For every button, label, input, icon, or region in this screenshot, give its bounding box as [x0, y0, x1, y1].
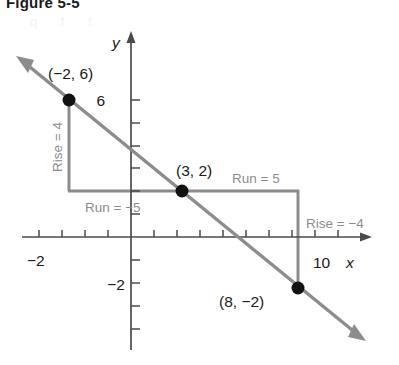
- annotation-rise-right: Rise = −4: [306, 216, 364, 231]
- data-point-8-neg2: [292, 282, 305, 295]
- y-tick-label-6: 6: [96, 92, 105, 109]
- figure-container: q f f Figure 5-5: [0, 0, 399, 365]
- coordinate-plot: (−2, 6) (3, 2) (8, −2) −2 10 6 −2 y x Ri…: [0, 0, 399, 365]
- x-axis: [22, 230, 372, 242]
- point-label-8-neg2: (8, −2): [219, 293, 264, 310]
- annotation-rise-left: Rise = 4: [50, 122, 65, 172]
- point-label-3-2: (3, 2): [176, 162, 212, 179]
- data-point-3-2: [176, 185, 189, 198]
- x-axis-label: x: [345, 254, 355, 271]
- y-axis-label: y: [111, 34, 121, 51]
- y-tick-label-neg2: −2: [107, 276, 125, 293]
- data-point-neg2-6: [63, 94, 76, 107]
- x-tick-label-10: 10: [313, 254, 331, 271]
- annotation-run-right: Run = 5: [232, 171, 280, 186]
- x-tick-label-neg2: −2: [27, 252, 45, 269]
- point-label-neg2-6: (−2, 6): [48, 65, 93, 82]
- annotation-run-left: Run = −5: [85, 200, 141, 215]
